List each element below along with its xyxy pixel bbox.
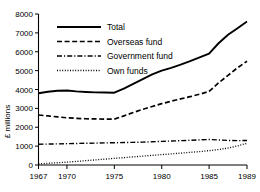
x-tick-label-1975: 1975: [105, 172, 123, 181]
legend-label-total: Total: [107, 22, 125, 32]
y-tick-label-7000: 7000: [15, 29, 33, 38]
chart-figure: 0100020003000400050006000700080001967197…: [0, 0, 260, 192]
y-axis-title: £ millions: [3, 105, 12, 138]
legend-label-government-fund: Government fund: [107, 51, 173, 61]
y-tick-label-3000: 3000: [15, 104, 33, 113]
y-tick-label-8000: 8000: [15, 10, 33, 19]
y-tick-label-4000: 4000: [15, 86, 33, 95]
x-tick-label-1967: 1967: [30, 172, 48, 181]
x-tick-label-1970: 1970: [58, 172, 76, 181]
legend-label-overseas-fund: Overseas fund: [107, 37, 163, 47]
y-tick-label-1000: 1000: [15, 142, 33, 151]
y-tick-label-0: 0: [29, 161, 34, 170]
y-tick-label-6000: 6000: [15, 48, 33, 57]
series-line-own-funds: [39, 143, 248, 164]
legend-label-own-funds: Own funds: [107, 66, 148, 76]
series-line-government-fund: [39, 140, 248, 145]
y-tick-label-5000: 5000: [15, 67, 33, 76]
x-tick-label-1989: 1989: [238, 172, 256, 181]
chart-canvas: 0100020003000400050006000700080001967197…: [0, 0, 260, 192]
x-tick-label-1980: 1980: [153, 172, 171, 181]
x-tick-label-1985: 1985: [200, 172, 218, 181]
y-tick-label-2000: 2000: [15, 123, 33, 132]
